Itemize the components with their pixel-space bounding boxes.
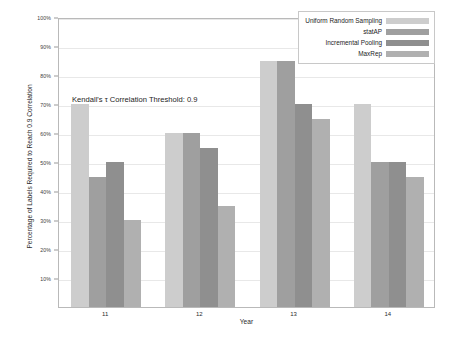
gridline [59, 135, 434, 136]
y-tick-label: 10% [40, 276, 51, 282]
legend-swatch [386, 18, 429, 24]
bar [260, 61, 278, 308]
x-tick-label: 14 [385, 311, 392, 317]
x-axis-title: Year [58, 318, 435, 325]
legend-item[interactable]: Uniform Random Sampling [305, 15, 429, 26]
x-tick-label: 11 [102, 311, 108, 317]
legend-label: Incremental Pooling [326, 39, 386, 46]
bar [371, 162, 389, 307]
bar [71, 104, 89, 307]
bar [165, 133, 183, 307]
legend-swatch [386, 40, 429, 46]
bar [106, 162, 124, 307]
y-tick-label: 80% [40, 73, 51, 79]
y-tick-label: 100% [37, 15, 51, 21]
bar [183, 133, 201, 307]
x-tick-label: 12 [196, 311, 203, 317]
bar [89, 177, 107, 308]
y-tick-label: 70% [40, 102, 51, 108]
bar [354, 104, 372, 307]
y-tick-label: 20% [40, 247, 51, 253]
bar-chart: 10%20%30%40%50%60%70%80%90%100% Percenta… [0, 0, 452, 343]
legend-label: Uniform Random Sampling [305, 17, 386, 24]
legend-swatch [386, 51, 429, 57]
legend-swatch [386, 29, 429, 35]
bar [124, 220, 142, 307]
bar [218, 206, 236, 308]
gridline [59, 106, 434, 107]
legend-item[interactable]: Incremental Pooling [305, 37, 429, 48]
bar [200, 148, 218, 308]
y-tick-label: 50% [40, 160, 51, 166]
y-tick-label: 30% [40, 218, 51, 224]
x-tick-label: 13 [290, 311, 297, 317]
legend-item[interactable]: MaxRep [305, 48, 429, 59]
legend: Uniform Random SamplingstatAPIncremental… [298, 11, 435, 64]
legend-label: MaxRep [358, 50, 386, 57]
y-tick-label: 40% [40, 189, 51, 195]
gridline [59, 77, 434, 78]
threshold-annotation: Kendall's τ Correlation Threshold: 0.9 [72, 95, 197, 104]
legend-item[interactable]: statAP [305, 26, 429, 37]
y-axis-title: Percentage of Labels Required to Reach 0… [26, 42, 33, 292]
bar [295, 104, 313, 307]
bar [389, 162, 407, 307]
bar [312, 119, 330, 308]
legend-label: statAP [363, 28, 386, 35]
y-tick-label: 60% [40, 131, 51, 137]
bar [406, 177, 424, 308]
bar [277, 61, 295, 308]
y-tick-label: 90% [40, 44, 51, 50]
